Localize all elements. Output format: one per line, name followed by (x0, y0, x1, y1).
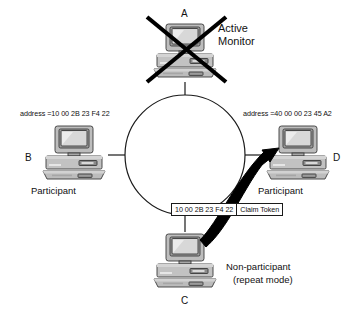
failed-node-cross-icon (0, 0, 358, 330)
frame-source-address: 10 00 2B 23 F4 22 (172, 204, 237, 215)
frame-type-label: Claim Token (237, 204, 282, 215)
claim-token-frame: 10 00 2B 23 F4 22 Claim Token (171, 203, 283, 216)
diagram-canvas: A Active Monitor address =10 00 2B 23 F4… (0, 0, 358, 330)
